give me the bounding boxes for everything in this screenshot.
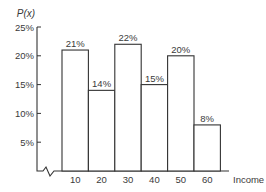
bar-60 — [194, 125, 220, 171]
bar-10 — [62, 50, 88, 171]
bars — [62, 44, 220, 171]
x-tick-label: 30 — [123, 174, 134, 185]
bar-value-label: 20% — [171, 44, 191, 55]
x-tick-label: 10 — [70, 174, 81, 185]
bar-value-label: 22% — [118, 32, 138, 43]
bar-value-label: 15% — [145, 73, 165, 84]
bar-50 — [168, 56, 194, 171]
bar-value-label: 8% — [200, 113, 214, 124]
x-tick-label: 50 — [176, 174, 187, 185]
y-tick-label: 20% — [15, 50, 35, 61]
y-tick-label: 25% — [15, 22, 35, 33]
y-tick-label: 10% — [15, 108, 35, 119]
x-axis-title: Income — [233, 174, 264, 185]
bar-30 — [115, 44, 141, 171]
x-tick-label: 40 — [149, 174, 160, 185]
bar-value-label: 21% — [66, 38, 86, 49]
histogram-chart: 5%10%15%20%25%P(x)21%1014%2022%3015%4020… — [0, 0, 266, 192]
y-tick-label: 5% — [20, 137, 34, 148]
x-tick-label: 20 — [96, 174, 107, 185]
x-tick-label: 60 — [202, 174, 213, 185]
bar-20 — [88, 90, 114, 171]
y-tick-label: 15% — [15, 79, 35, 90]
bar-40 — [141, 85, 167, 171]
y-axis-title: P(x) — [17, 8, 35, 19]
bar-value-label: 14% — [92, 78, 112, 89]
